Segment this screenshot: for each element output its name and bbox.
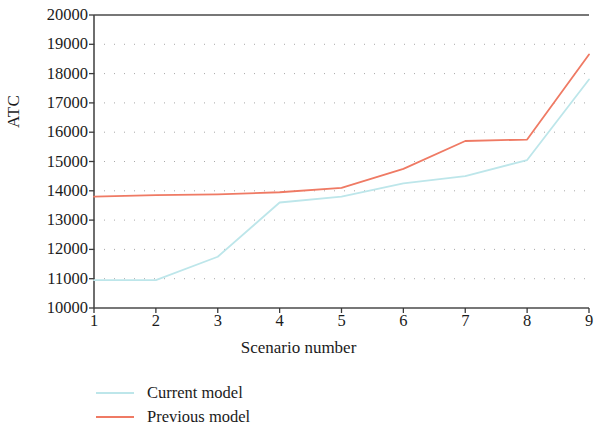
x-tick-label: 8 <box>512 313 542 330</box>
x-axis-title: Scenario number <box>0 338 597 358</box>
x-tick-label: 7 <box>450 313 480 330</box>
y-tick-label: 16000 <box>18 124 88 141</box>
y-tick-label: 19000 <box>18 36 88 53</box>
series-line-current-model <box>94 79 589 280</box>
y-tick-label: 17000 <box>18 95 88 112</box>
legend-item[interactable]: Current model <box>96 381 250 405</box>
legend-item[interactable]: Previous model <box>96 405 250 429</box>
y-tick-label: 11000 <box>18 271 88 288</box>
series-line-previous-model <box>94 55 589 197</box>
y-tick-label: 18000 <box>18 66 88 83</box>
chart-legend: Current modelPrevious model <box>96 381 250 429</box>
x-tick-label: 2 <box>141 313 171 330</box>
y-tick-label: 10000 <box>18 300 88 317</box>
x-tick-label: 9 <box>574 313 597 330</box>
legend-color-swatch <box>96 416 134 418</box>
legend-color-swatch <box>96 392 134 394</box>
x-tick-label: 3 <box>203 313 233 330</box>
x-tick-label: 6 <box>388 313 418 330</box>
legend-label: Current model <box>147 385 243 402</box>
plot-area <box>0 0 597 437</box>
legend-label: Previous model <box>147 409 250 426</box>
x-tick-label: 5 <box>327 313 357 330</box>
y-tick-label: 20000 <box>18 7 88 24</box>
y-tick-label: 15000 <box>18 154 88 171</box>
y-tick-label: 12000 <box>18 241 88 258</box>
x-tick-label: 4 <box>265 313 295 330</box>
y-axis-tick-labels: 2000019000180001700016000150001400013000… <box>14 0 88 320</box>
y-tick-label: 14000 <box>18 183 88 200</box>
x-tick-label: 1 <box>79 313 109 330</box>
chart-figure: ATC 200001900018000170001600015000140001… <box>0 0 597 437</box>
y-tick-label: 13000 <box>18 212 88 229</box>
